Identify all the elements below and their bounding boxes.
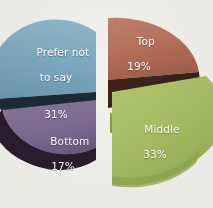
slice-middle-top [112,76,213,185]
pie-chart: Top 19% Middle 33% Bottom 17% Prefer not… [0,0,213,208]
explode-gap [96,0,108,208]
pie-chart-graphic [0,0,213,208]
slice-top-top [108,18,199,80]
slice-prefer-top [0,20,96,99]
